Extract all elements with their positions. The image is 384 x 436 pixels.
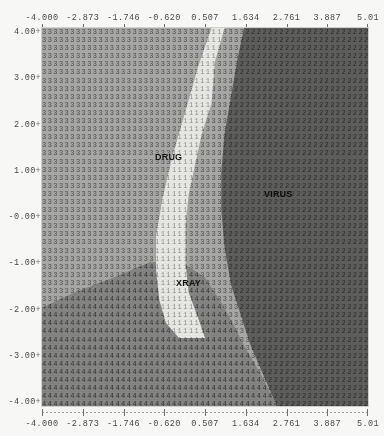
region-label-xray: XRAY xyxy=(176,278,201,288)
left-axis-labels: 4.00 3.00 2.00 1.00 -0.00 -1.00 -2.00 -3… xyxy=(0,0,42,436)
bottom-tick-label-5: 1.634 xyxy=(232,419,260,429)
bottom-tick-6 xyxy=(287,409,288,416)
top-tick-label-7: 3.887 xyxy=(314,13,342,23)
bottom-tick-1 xyxy=(83,409,84,416)
left-tick-label-4: -0.00 xyxy=(9,212,41,222)
bottom-tick-label-3: -0.620 xyxy=(148,419,181,429)
left-tick-label-6: -2.00 xyxy=(9,305,41,315)
bottom-tick-label-7: 3.887 xyxy=(314,419,342,429)
left-tick-label-7: -3.00 xyxy=(9,351,41,361)
classification-region-plot: -4.000 -2.873 -1.746 -0.620 0.507 1.634 … xyxy=(0,0,384,436)
top-tick-label-8: 5.01 xyxy=(357,13,379,23)
top-tick-label-2: -1.746 xyxy=(107,13,140,23)
left-tick-label-0: 4.00 xyxy=(14,27,41,37)
bottom-tick-8 xyxy=(367,409,368,416)
top-tick-label-4: 0.507 xyxy=(191,13,219,23)
bottom-tick-label-6: 2.761 xyxy=(273,419,301,429)
bottom-axis-rule xyxy=(42,409,368,416)
top-tick-label-3: -0.620 xyxy=(148,13,181,23)
bottom-tick-label-0: -4.000 xyxy=(25,419,58,429)
bottom-tick-label-2: -1.746 xyxy=(107,419,140,429)
bottom-tick-4 xyxy=(205,409,206,416)
top-tick-label-5: 1.634 xyxy=(232,13,260,23)
bottom-tick-label-8: 5.01 xyxy=(357,419,379,429)
bottom-tick-label-4: 0.507 xyxy=(191,419,219,429)
left-tick-label-8: -4.00 xyxy=(9,397,41,407)
left-tick-label-5: -1.00 xyxy=(9,258,41,268)
region-label-drug: DRUG xyxy=(155,152,182,162)
bottom-tick-0 xyxy=(42,409,43,416)
region-label-virus: VIRUS xyxy=(264,189,293,199)
top-tick-label-1: -2.873 xyxy=(66,13,99,23)
left-tick-label-1: 3.00 xyxy=(14,73,41,83)
bottom-axis-labels: -4.000 -2.873 -1.746 -0.620 0.507 1.634 … xyxy=(0,419,384,431)
bottom-tick-5 xyxy=(246,409,247,416)
plot-canvas: 3333333333333333333333333333333333333333… xyxy=(42,28,368,406)
left-tick-label-2: 2.00 xyxy=(14,120,41,130)
top-tick-label-6: 2.761 xyxy=(273,13,301,23)
bottom-tick-2 xyxy=(124,409,125,416)
left-tick-label-3: 1.00 xyxy=(14,166,41,176)
bottom-tick-label-1: -2.873 xyxy=(66,419,99,429)
bottom-tick-7 xyxy=(327,409,328,416)
bottom-tick-3 xyxy=(164,409,165,416)
